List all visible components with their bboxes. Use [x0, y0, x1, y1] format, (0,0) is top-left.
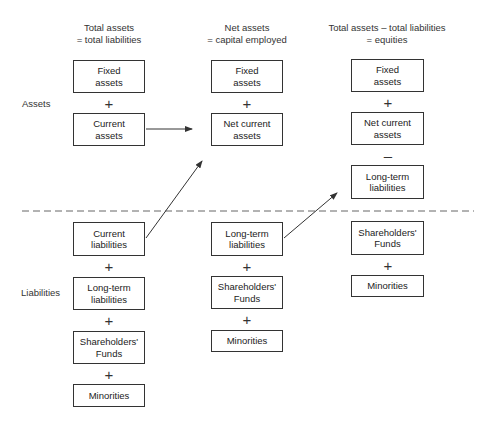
assets-label: Assets	[22, 98, 51, 109]
box-text: Net current	[224, 118, 271, 130]
col1-current-assets-box: Currentassets	[73, 113, 145, 146]
plus-operator: +	[99, 367, 119, 382]
box-text: Shareholders'	[358, 227, 416, 239]
liabilities-label: Liabilities	[21, 287, 60, 298]
box-text: liabilities	[87, 294, 130, 306]
box-text: Shareholders'	[80, 336, 138, 348]
plus-operator: +	[99, 96, 119, 111]
plus-operator: +	[237, 259, 257, 274]
col2-net-current-assets-box: Net currentassets	[211, 113, 283, 146]
plus-operator: +	[378, 258, 398, 273]
box-text: Funds	[358, 238, 416, 250]
header-line: = capital employed	[197, 34, 297, 46]
box-text: assets	[374, 76, 401, 88]
col2-long-term-liabilities-box: Long-termliabilities	[211, 222, 283, 256]
box-text: Current	[91, 228, 127, 240]
col1-shareholders-funds-box: Shareholders'Funds	[73, 331, 145, 364]
col3-minorities-box: Minorities	[351, 275, 424, 297]
col3-shareholders-funds-box: Shareholders'Funds	[351, 221, 424, 255]
col3-fixed-assets-box: Fixedassets	[351, 59, 424, 92]
box-text: Long-term	[87, 282, 130, 294]
plus-operator: +	[237, 312, 257, 327]
column-1-header: Total assets = total liabilities	[59, 22, 159, 46]
col3-long-term-liabilities-box: Long-termliabilities	[351, 165, 424, 199]
header-line: Total assets – total liabilities	[317, 22, 457, 34]
header-line: = total liabilities	[59, 34, 159, 46]
box-text: assets	[224, 130, 271, 142]
plus-operator: +	[378, 95, 398, 110]
header-line: = equities	[317, 34, 457, 46]
box-text: Minorities	[227, 335, 268, 347]
col1-current-liabilities-box: Currentliabilities	[73, 222, 145, 256]
box-text: Funds	[80, 348, 138, 360]
box-text: assets	[95, 77, 122, 89]
box-text: Long-term	[366, 171, 409, 183]
col1-fixed-assets-box: Fixedassets	[73, 60, 145, 93]
arrow-longterm-liab-to-col3	[284, 193, 337, 238]
box-text: liabilities	[225, 239, 268, 251]
box-text: Fixed	[95, 65, 122, 77]
box-text: Current	[93, 118, 125, 130]
box-text: liabilities	[91, 239, 127, 251]
box-text: Minorities	[367, 280, 408, 292]
box-text: assets	[364, 129, 411, 141]
col2-fixed-assets-box: Fixedassets	[211, 60, 283, 93]
col1-long-term-liabilities-box: Long-termliabilities	[73, 277, 145, 310]
box-text: Shareholders'	[218, 281, 276, 293]
plus-operator: +	[99, 313, 119, 328]
box-text: liabilities	[366, 182, 409, 194]
plus-operator: +	[237, 96, 257, 111]
col3-net-current-assets-box: Net currentassets	[351, 112, 424, 145]
col2-minorities-box: Minorities	[211, 330, 283, 352]
box-text: Long-term	[225, 228, 268, 240]
column-3-header: Total assets – total liabilities = equit…	[317, 22, 457, 46]
box-text: Fixed	[374, 64, 401, 76]
box-text: assets	[233, 77, 260, 89]
plus-operator: +	[99, 259, 119, 274]
column-2-header: Net assets = capital employed	[197, 22, 297, 46]
col2-shareholders-funds-box: Shareholders'Funds	[211, 276, 283, 309]
box-text: Net current	[364, 117, 411, 129]
box-text: Funds	[218, 293, 276, 305]
header-line: Net assets	[197, 22, 297, 34]
arrow-current-liab-to-net-current	[146, 161, 202, 238]
box-text: Fixed	[233, 65, 260, 77]
header-line: Total assets	[59, 22, 159, 34]
minus-operator: –	[378, 148, 398, 163]
box-text: Minorities	[89, 390, 130, 402]
box-text: assets	[93, 130, 125, 142]
col1-minorities-box: Minorities	[73, 384, 145, 407]
